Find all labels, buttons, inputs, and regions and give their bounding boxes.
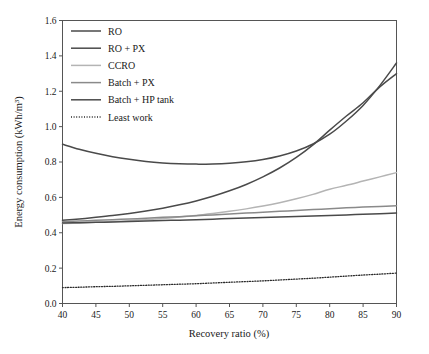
x-tick-label: 65 (225, 310, 235, 320)
chart-figure: 0.00.20.40.60.81.01.21.41.6 404550556065… (0, 0, 429, 354)
y-axis-title-tail: ) (13, 96, 25, 100)
legend-label-ro: RO (108, 26, 122, 37)
x-tick-label: 50 (125, 310, 135, 320)
x-tick-label: 75 (292, 310, 302, 320)
x-tick-label: 45 (91, 310, 101, 320)
y-tick-label: 0.6 (45, 193, 57, 203)
x-tick-label: 85 (358, 310, 368, 320)
y-tick-label: 1.0 (45, 122, 57, 132)
x-tick-label: 70 (258, 310, 268, 320)
y-tick-label: 0.8 (45, 157, 57, 167)
energy-consumption-line-chart: 0.00.20.40.60.81.01.21.41.6 404550556065… (0, 0, 429, 354)
legend-label-ccro: CCRO (108, 60, 135, 71)
y-axis-title-main: Energy consumption (kWh/m (13, 103, 25, 228)
x-tick-label: 80 (325, 310, 335, 320)
y-tick-label: 0.0 (45, 299, 57, 309)
y-tick-label: 1.2 (45, 87, 57, 97)
y-tick-label: 0.4 (45, 228, 57, 238)
chart-background (0, 0, 429, 354)
x-tick-label: 60 (191, 310, 201, 320)
x-tick-label: 40 (58, 310, 68, 320)
y-tick-label: 1.4 (45, 51, 57, 61)
y-tick-label: 0.2 (45, 264, 57, 274)
x-tick-label: 55 (158, 310, 168, 320)
legend-label-batch-px: Batch + PX (108, 77, 156, 88)
y-tick-label: 1.6 (45, 16, 57, 26)
legend-label-ro-px: RO + PX (108, 43, 146, 54)
legend-label-batch-hp-tank: Batch + HP tank (108, 94, 174, 105)
x-tick-label: 90 (392, 310, 402, 320)
y-axis-title: Energy consumption (kWh/m3) (13, 96, 26, 228)
x-axis-title: Recovery ratio (%) (189, 328, 270, 340)
legend-label-least-work: Least work (108, 112, 153, 123)
